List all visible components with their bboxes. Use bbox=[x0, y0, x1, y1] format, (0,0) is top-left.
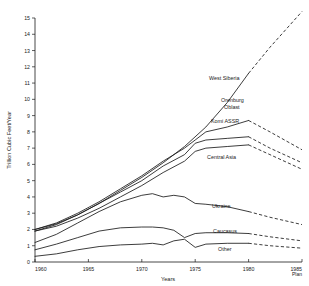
y-tick-label-12: 12 bbox=[24, 64, 30, 70]
series-label-text-orenburg-line2: Oblast bbox=[224, 104, 240, 110]
x-tick-label-1975: 1975 bbox=[189, 266, 201, 272]
series-label-text-west-siberia: West Siberia bbox=[209, 75, 239, 81]
x-axis-plan-label: Plan bbox=[292, 271, 302, 277]
series-label-komi: Komi ASSR bbox=[211, 118, 239, 124]
chart-background bbox=[0, 0, 309, 286]
series-label-ukraine: Ukraine bbox=[212, 203, 231, 209]
y-tick-label-2: 2 bbox=[27, 226, 30, 232]
series-label-text-caucasus: Caucasus bbox=[213, 228, 237, 234]
x-tick-label-1980: 1980 bbox=[243, 266, 255, 272]
y-tick-label-13: 13 bbox=[24, 48, 30, 54]
y-tick-label-15: 15 bbox=[24, 15, 30, 21]
line-chart: 0123456789101112131415 19601965197019751… bbox=[0, 0, 309, 286]
y-tick-label-11: 11 bbox=[25, 80, 30, 86]
series-label-caucasus: Caucasus bbox=[213, 228, 237, 234]
y-axis-title: Trillion Cubic Feet/Year bbox=[6, 111, 12, 169]
y-tick-label-7: 7 bbox=[27, 145, 30, 151]
series-label-text-komi: Komi ASSR bbox=[211, 118, 239, 124]
x-axis-title: Years bbox=[161, 276, 175, 282]
series-label-text-orenburg-line1: Orenburg bbox=[221, 97, 244, 103]
y-tick-label-1: 1 bbox=[27, 243, 30, 249]
y-tick-label-5: 5 bbox=[27, 178, 30, 184]
x-tick-label-1970: 1970 bbox=[136, 266, 148, 272]
y-tick-label-3: 3 bbox=[27, 210, 30, 216]
chart-container: 0123456789101112131415 19601965197019751… bbox=[0, 0, 309, 286]
y-tick-label-10: 10 bbox=[24, 96, 30, 102]
y-tick-label-14: 14 bbox=[24, 31, 30, 37]
series-label-central-asia: Central Asia bbox=[207, 154, 236, 160]
y-tick-label-8: 8 bbox=[27, 129, 30, 135]
series-label-text-ukraine: Ukraine bbox=[212, 203, 231, 209]
y-tick-label-9: 9 bbox=[27, 113, 30, 119]
x-tick-label-1960: 1960 bbox=[35, 266, 47, 272]
y-tick-label-4: 4 bbox=[27, 194, 30, 200]
y-tick-label-6: 6 bbox=[27, 161, 30, 167]
y-tick-label-0: 0 bbox=[27, 259, 30, 265]
series-label-west-siberia: West Siberia bbox=[209, 75, 239, 81]
series-label-other: Other bbox=[218, 246, 232, 252]
series-label-text-central-asia: Central Asia bbox=[207, 154, 236, 160]
series-label-text-other: Other bbox=[218, 246, 232, 252]
x-tick-label-1965: 1965 bbox=[83, 266, 95, 272]
